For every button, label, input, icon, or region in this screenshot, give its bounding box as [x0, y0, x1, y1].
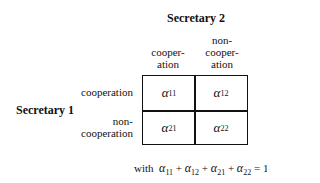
column-header-non-cooperation: non- cooper- ation	[196, 34, 248, 70]
row-header-line: cooperation	[43, 86, 133, 98]
subscript: 21	[168, 124, 176, 133]
matrix-cell-11: α11	[143, 76, 195, 110]
subscript: 12	[220, 89, 228, 98]
plus-operator: +	[176, 162, 182, 174]
column-header-line: ation	[196, 58, 248, 70]
column-header-line: non-	[196, 34, 248, 46]
matrix-cell-22: α22	[195, 111, 247, 145]
subscript: 12	[191, 168, 199, 177]
row-header-line: cooperation	[43, 127, 133, 139]
column-header-line: cooper-	[196, 46, 248, 58]
subscript: 21	[217, 168, 225, 177]
constraint-prefix: with	[134, 162, 154, 174]
column-header-line: cooper-	[142, 46, 194, 58]
subscript: 11	[169, 89, 177, 98]
alpha-symbol: α	[214, 120, 221, 136]
alpha-symbol: α	[214, 85, 221, 101]
plus-operator: +	[228, 162, 234, 174]
constraint-equation: with α11 + α12 + α21 + α22 = 1	[134, 161, 267, 177]
column-header-line: ation	[142, 58, 194, 70]
plus-operator: +	[202, 162, 208, 174]
subscript: 22	[243, 168, 251, 177]
column-header-line	[142, 34, 194, 46]
matrix-cell-21: α21	[143, 111, 195, 145]
matrix-cell-12: α12	[195, 76, 247, 110]
column-player-label: Secretary 2	[152, 12, 240, 24]
row-header-non-cooperation: non- cooperation	[43, 115, 133, 139]
payoff-matrix: α11 α12 α21 α22	[142, 75, 248, 145]
row-header-line: non-	[43, 115, 133, 127]
subscript: 22	[220, 124, 228, 133]
alpha-symbol: α	[162, 85, 169, 101]
alpha-symbol: α	[162, 120, 169, 136]
equals-one: = 1	[254, 162, 267, 174]
subscript: 11	[165, 168, 173, 177]
row-header-cooperation: cooperation	[43, 86, 133, 98]
column-header-cooperation: cooper- ation	[142, 34, 194, 70]
